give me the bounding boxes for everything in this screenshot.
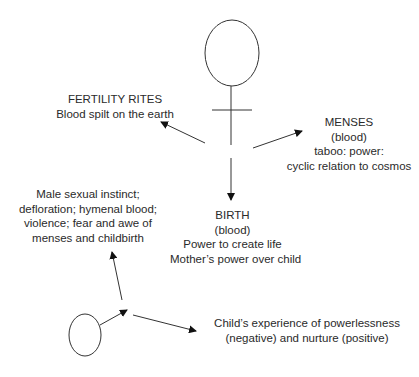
male-line-4: menses and childbirth [8, 231, 168, 246]
child-line-1: Child’s experience of powerlessness [207, 316, 407, 331]
menses-line-4: cyclic relation to cosmos [279, 159, 419, 174]
birth-line-3: Power to create life [170, 237, 295, 252]
menses-title: MENSES [279, 115, 419, 130]
label-child: Child’s experience of powerlessness (neg… [207, 316, 407, 345]
fertility-title: FERTILITY RITES [55, 92, 175, 107]
male-line-2: defloration; hymenal blood; [8, 202, 168, 217]
label-birth: BIRTH (blood) Power to create life Mothe… [170, 208, 295, 266]
fertility-desc: Blood spilt on the earth [55, 107, 175, 122]
small-circle-symbol [69, 314, 101, 356]
label-fertility-rites: FERTILITY RITES Blood spilt on the earth [55, 92, 175, 121]
female-symbol-head [205, 20, 259, 86]
arrow-circle-out [100, 310, 127, 325]
birth-title: BIRTH [170, 208, 295, 223]
female-symbol [205, 20, 259, 145]
menses-line-3: taboo: power: [279, 144, 419, 159]
label-menses: MENSES (blood) taboo: power: cyclic rela… [279, 115, 419, 173]
male-line-1: Male sexual instinct; [8, 187, 168, 202]
arrow-to-fertility [161, 122, 205, 143]
arrow-to-male [112, 252, 122, 300]
male-line-3: violence; fear and awe of [8, 216, 168, 231]
birth-line-4: Mother’s power over child [170, 252, 295, 267]
child-line-2: (negative) and nurture (positive) [207, 331, 407, 346]
label-male: Male sexual instinct; defloration; hymen… [8, 187, 168, 245]
menses-line-2: (blood) [279, 130, 419, 145]
arrow-to-child [133, 315, 196, 331]
birth-line-2: (blood) [170, 223, 295, 238]
